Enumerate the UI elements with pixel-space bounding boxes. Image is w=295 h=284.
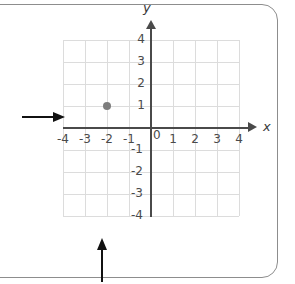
x-tick-label-minus3: -3	[74, 132, 96, 146]
y-tick-label-minus4: -4	[121, 208, 143, 222]
vertical-indicator-arrow	[97, 238, 108, 282]
horizontal-indicator-arrow	[22, 112, 66, 123]
plot-area: x y 0 -4 -3 -2 -1 1 2 3 4 4 3 2 1 -1 -2 …	[63, 40, 239, 216]
arrow-head-icon	[97, 238, 107, 250]
coordinate-plane-figure: x y 0 -4 -3 -2 -1 1 2 3 4 4 3 2 1 -1 -2 …	[0, 0, 295, 284]
origin-label: 0	[153, 128, 161, 142]
arrow-shaft	[22, 116, 55, 118]
x-axis-label: x	[263, 119, 271, 134]
x-tick-label-minus4: -4	[52, 132, 74, 146]
x-tick-label-3: 3	[206, 132, 228, 146]
y-tick-label-1: 1	[123, 98, 145, 112]
y-tick-label-4: 4	[123, 32, 145, 46]
data-point-marker	[103, 102, 111, 110]
y-tick-label-minus1: -1	[121, 142, 143, 156]
x-tick-label-minus2: -2	[96, 132, 118, 146]
y-axis-arrowhead-icon	[146, 20, 156, 29]
arrow-shaft	[101, 249, 103, 282]
y-axis-line	[150, 27, 152, 217]
y-tick-label-3: 3	[123, 54, 145, 68]
x-tick-label-4: 4	[228, 132, 250, 146]
y-tick-label-minus3: -3	[121, 186, 143, 200]
y-tick-label-2: 2	[123, 76, 145, 90]
x-axis-arrowhead-icon	[248, 122, 257, 132]
arrow-head-icon	[53, 112, 65, 122]
y-tick-label-minus2: -2	[121, 164, 143, 178]
y-axis-label: y	[143, 0, 151, 15]
x-tick-label-1: 1	[162, 132, 184, 146]
x-tick-label-2: 2	[184, 132, 206, 146]
